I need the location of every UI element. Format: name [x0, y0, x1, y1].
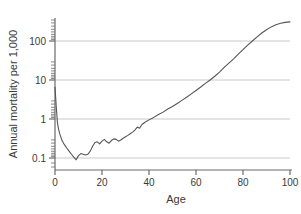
x-tick-label-80: 80	[237, 177, 249, 188]
x-axis-title: Age	[166, 193, 186, 205]
x-tick-label-20: 20	[96, 177, 108, 188]
y-tick-label-0.1: 0.1	[32, 153, 46, 164]
y-tick-label-10: 10	[35, 75, 47, 86]
y-tick-label-1: 1	[40, 114, 46, 125]
y-tick-label-100: 100	[29, 36, 46, 47]
chart-figure: 100 10 1 0.1 0 20 40 60 80 100 Age Annua…	[0, 0, 301, 214]
mortality-log-chart: 100 10 1 0.1 0 20 40 60 80 100 Age Annua…	[0, 0, 301, 214]
x-axis-major-ticks	[55, 170, 290, 175]
x-tick-label-40: 40	[143, 177, 155, 188]
y-axis-major-ticks	[49, 41, 55, 158]
x-tick-label-100: 100	[282, 177, 299, 188]
y-axis-title: Annual mortality per 1,000	[7, 30, 19, 158]
x-tick-label-60: 60	[190, 177, 202, 188]
x-tick-label-0: 0	[52, 177, 58, 188]
